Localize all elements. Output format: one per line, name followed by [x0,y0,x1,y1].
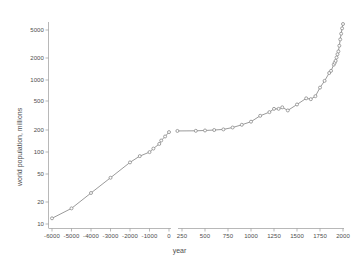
x-tick-label: 1000 [244,233,258,239]
data-point-marker [337,50,340,53]
x-tick-label: 1500 [290,233,304,239]
data-point-marker [341,27,344,30]
chart-canvas [0,0,359,267]
x-tick-label: 1750 [313,233,327,239]
data-point-marker [109,176,112,179]
data-point-marker [240,123,243,126]
data-point-marker [176,129,179,132]
data-point-marker [340,32,343,35]
data-point-marker [129,161,132,164]
data-point-marker [231,126,234,129]
data-point-marker [70,207,73,210]
data-point-marker [152,147,155,150]
data-point-marker [204,129,207,132]
x-tick-label: 250 [177,233,187,239]
x-tick-label: 0 [167,233,170,239]
data-point-marker [273,107,276,110]
data-point-marker [281,106,284,109]
data-point-marker [51,217,54,220]
data-point-marker [334,59,337,62]
y-tick-label: 1000 [22,77,44,83]
y-axis-title: world population, millions [16,108,23,186]
data-point-marker [168,131,171,134]
x-tick-label: -2000 [122,233,138,239]
data-point-marker [342,23,345,26]
data-point-marker [268,111,271,114]
data-point-marker [250,120,253,123]
x-tick-label: -3000 [103,233,119,239]
data-point-marker [90,191,93,194]
data-point-marker [338,44,341,47]
data-point-marker [305,97,308,100]
x-tick-label: 500 [200,233,210,239]
data-line [52,132,169,218]
x-tick-label: -4000 [83,233,99,239]
data-series-layer [51,23,345,220]
y-tick-label: 50 [22,171,44,177]
data-point-marker [194,129,197,132]
data-point-marker [164,135,167,138]
y-tick-label: 10 [22,221,44,227]
data-point-marker [319,86,322,89]
data-point-marker [309,98,312,101]
data-point-marker [222,128,225,131]
y-tick-label: 200 [22,127,44,133]
x-tick-label: -5000 [64,233,80,239]
world-population-chart: 5000 2000 1000 500 200 100 50 20 10 -600… [0,0,359,267]
data-point-marker [213,129,216,132]
x-tick-label: 2000 [336,233,350,239]
y-tick-label: 500 [22,98,44,104]
x-tick-label: -6000 [44,233,60,239]
x-tick-label: 750 [223,233,233,239]
x-tick-marks-left [52,229,169,232]
x-axis-title: year [0,247,359,254]
y-tick-label: 2000 [22,55,44,61]
data-point-marker [160,139,163,142]
y-tick-label: 100 [22,149,44,155]
y-tick-label: 5000 [22,27,44,33]
y-tick-marks [46,30,49,224]
data-point-marker [314,95,317,98]
data-point-marker [286,109,289,112]
data-point-marker [335,56,338,59]
data-point-marker [296,103,299,106]
x-tick-marks-right [182,229,343,232]
data-point-marker [277,107,280,110]
data-point-marker [259,114,262,117]
data-point-marker [330,69,333,72]
data-point-marker [148,151,151,154]
data-point-marker [323,79,326,82]
x-tick-label: -1000 [142,233,158,239]
x-tick-label: 1250 [267,233,281,239]
data-point-marker [158,142,161,145]
y-tick-label: 20 [22,199,44,205]
data-point-marker [339,38,342,41]
data-point-marker [138,155,141,158]
